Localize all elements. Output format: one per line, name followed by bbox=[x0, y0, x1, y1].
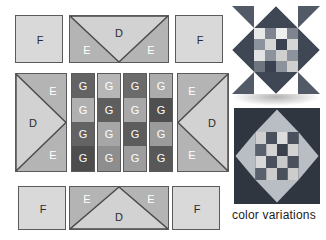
label-g: G bbox=[79, 129, 88, 140]
patch-cell: G bbox=[72, 74, 94, 98]
label-g: G bbox=[131, 105, 140, 116]
star-center-checkerboard bbox=[256, 132, 299, 180]
star-block-light-svg bbox=[232, 6, 320, 94]
label-g: G bbox=[105, 81, 114, 92]
patch-cell: G bbox=[72, 122, 94, 146]
patch-cell: G bbox=[124, 74, 146, 98]
unit-patch-column-2: G G G G bbox=[97, 73, 121, 172]
label-g: G bbox=[157, 81, 166, 92]
flying-geese-down-shape bbox=[70, 16, 168, 62]
label-g: G bbox=[131, 81, 140, 92]
unit-square-f-top-left: F bbox=[15, 15, 63, 63]
label-g: G bbox=[79, 153, 88, 164]
patch-cell: G bbox=[72, 146, 94, 171]
unit-square-f-bottom-left: F bbox=[18, 186, 66, 230]
patch-cell: G bbox=[150, 74, 172, 98]
flying-geese-up-shape bbox=[70, 187, 168, 229]
label-g: G bbox=[131, 153, 140, 164]
label-g: G bbox=[79, 81, 88, 92]
patch-cell: G bbox=[98, 74, 120, 98]
star-block-dark-svg bbox=[234, 108, 320, 204]
label-f: F bbox=[40, 204, 47, 215]
patch-cell: G bbox=[124, 98, 146, 122]
star-center-checkerboard bbox=[254, 28, 298, 72]
label-g: G bbox=[105, 153, 114, 164]
unit-patch-column-4: G G G G bbox=[149, 73, 173, 172]
patch-cell: G bbox=[124, 146, 146, 171]
patch-cell: G bbox=[150, 122, 172, 146]
star-variation-top bbox=[232, 6, 320, 94]
unit-flying-geese-left: D E E bbox=[177, 73, 229, 172]
patch-cell: G bbox=[150, 146, 172, 171]
patch-cell: G bbox=[98, 146, 120, 171]
label-g: G bbox=[157, 105, 166, 116]
flying-geese-right-shape bbox=[16, 74, 66, 171]
patch-cell: G bbox=[98, 122, 120, 146]
label-f: F bbox=[197, 35, 204, 46]
flying-geese-left-shape bbox=[178, 74, 228, 171]
label-g: G bbox=[157, 153, 166, 164]
patch-cell: G bbox=[98, 98, 120, 122]
label-g: G bbox=[79, 105, 88, 116]
label-g: G bbox=[105, 105, 114, 116]
unit-flying-geese-right: D E E bbox=[15, 73, 67, 172]
unit-patch-column-3: G G G G bbox=[123, 73, 147, 172]
label-g: G bbox=[131, 129, 140, 140]
label-g: G bbox=[157, 129, 166, 140]
unit-flying-geese-down: D E E bbox=[69, 15, 169, 63]
label-f: F bbox=[194, 204, 201, 215]
star-variation-bottom bbox=[234, 108, 320, 204]
label-g: G bbox=[105, 129, 114, 140]
patch-cell: G bbox=[124, 122, 146, 146]
quilt-diagram: F D E E F D E E G G G G bbox=[0, 0, 326, 240]
patch-cell: G bbox=[72, 98, 94, 122]
label-f: F bbox=[37, 35, 44, 46]
patch-cell: G bbox=[150, 98, 172, 122]
color-variations-caption: color variations bbox=[232, 208, 316, 222]
unit-patch-column-1: G G G G bbox=[71, 73, 95, 172]
unit-flying-geese-up: D E E bbox=[69, 186, 169, 230]
unit-square-f-top-right: F bbox=[175, 15, 223, 63]
unit-square-f-bottom-right: F bbox=[172, 186, 220, 230]
